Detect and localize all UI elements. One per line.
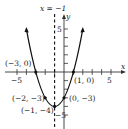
y-tick-label-5: 5: [57, 25, 62, 34]
parabola-graph: x = −1 y x −5 5 5 −5 (−3, 0) (1, 0) (−2,…: [0, 0, 128, 129]
point-1-0: [72, 70, 75, 73]
curve-arrow-right-icon: [80, 27, 84, 33]
point-label-1-0: (1, 0): [74, 76, 94, 85]
x-tick-label-neg5: −5: [11, 76, 22, 85]
point-label-0-neg3: (0, −3): [69, 94, 96, 103]
x-tick-label-5: 5: [107, 76, 112, 85]
y-axis-label: y: [65, 12, 71, 21]
point-label-neg3-0: (−3, 0): [5, 59, 32, 68]
point-label-vertex: (−1, −4): [21, 106, 54, 115]
point-label-neg2-neg3: (−2, −3): [12, 94, 45, 103]
x-axis: [5, 69, 126, 75]
x-axis-label: x: [121, 62, 126, 71]
y-tick-label-neg5: −5: [55, 111, 66, 120]
axis-of-symmetry-label: x = −1: [40, 4, 66, 13]
curve-arrow-left-icon: [25, 27, 29, 33]
point-neg3-0: [34, 70, 37, 73]
point-0-neg3: [62, 96, 65, 99]
